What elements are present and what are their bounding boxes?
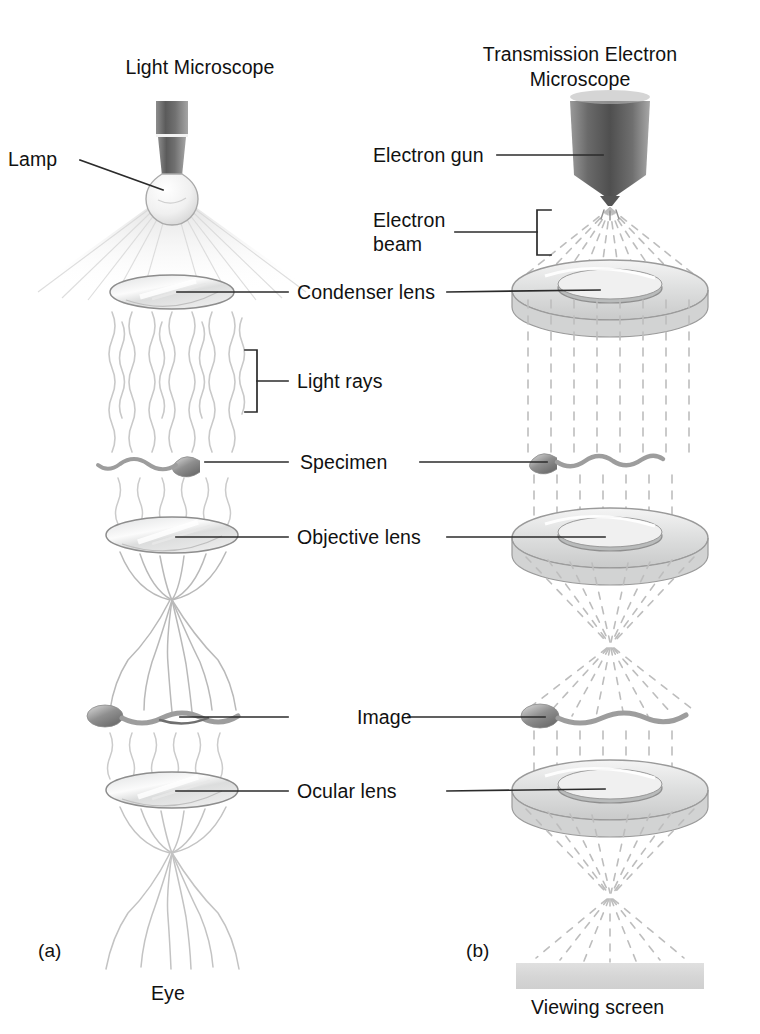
objective-lens-a	[106, 517, 238, 553]
lamp-neck	[158, 137, 186, 176]
electron-emission-sparkle	[601, 210, 619, 220]
label-objective-lens: Objective lens	[297, 525, 421, 549]
eye-light-cone	[106, 807, 239, 969]
label-specimen: Specimen	[300, 450, 388, 474]
specimen-b	[529, 454, 663, 474]
electron-gun	[570, 90, 650, 206]
lamp-bulb	[146, 174, 198, 225]
bracket-electron-beam	[537, 210, 551, 255]
label-condenser-lens: Condenser lens	[297, 280, 435, 304]
label-light-rays: Light rays	[297, 369, 383, 393]
objective-light-cone	[110, 552, 236, 712]
panel-b-tag: (b)	[466, 940, 490, 962]
light-microscope-illustration	[20, 101, 325, 969]
label-ocular-lens: Ocular lens	[297, 779, 397, 803]
panel-a-footer: Eye	[151, 982, 185, 1005]
viewing-screen	[516, 963, 704, 989]
image-a	[87, 705, 238, 727]
label-electron-beam-line1: Electron	[373, 208, 445, 232]
specimen-a	[98, 457, 200, 477]
leader-lamp	[80, 160, 163, 190]
bracket-light-rays	[245, 350, 288, 412]
condenser-lens-b	[512, 260, 708, 337]
label-lamp: Lamp	[8, 147, 57, 171]
lamp-housing	[156, 101, 188, 136]
ocular-lens-a	[106, 772, 238, 808]
tem-illustration	[512, 90, 708, 989]
label-electron-beam: Electron beam	[373, 208, 445, 256]
label-electron-beam-line2: beam	[373, 232, 445, 256]
figure-canvas: Light Microscope Transmission Electron M…	[0, 0, 760, 1034]
image-b	[521, 704, 686, 728]
light-rays-bundle-upper	[109, 312, 245, 452]
panel-b-footer: Viewing screen	[531, 996, 664, 1019]
label-image: Image	[357, 705, 412, 729]
label-electron-gun: Electron gun	[373, 143, 484, 167]
panel-a-tag: (a)	[38, 940, 62, 962]
